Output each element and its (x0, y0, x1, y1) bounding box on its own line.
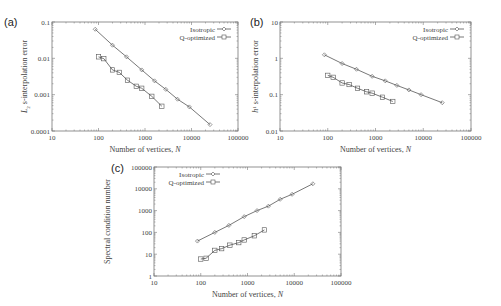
chart-a: 101001000100001000000.00010.0010.010.1Nu… (0, 0, 250, 155)
x-tick-label: 100000 (228, 134, 250, 142)
legend-label: Isotropic (423, 26, 448, 34)
chart-b: 101001000100001000000.010.1110Number of … (250, 0, 501, 155)
y-tick-label: 1 (275, 55, 279, 63)
panel-letter-c: (c) (111, 162, 124, 174)
y-tick-label: 0.01 (266, 128, 279, 136)
legend-label: Q-optimized (180, 34, 216, 42)
y-tick-label: 100000 (131, 164, 153, 172)
y-tick-label: 1000 (138, 207, 153, 215)
data-point (440, 101, 444, 105)
y-tick-label: 0.001 (34, 91, 50, 99)
series-isotropic (322, 53, 444, 105)
x-tick-label: 100000 (461, 134, 483, 142)
y-axis-label: L2 s-interpolation error (20, 40, 31, 114)
panel-a: (a) 101001000100001000000.00010.0010.010… (0, 0, 250, 155)
y-axis-label: h1 s-interpolation error (251, 40, 260, 113)
y-axis-label: Spectral condition number (103, 179, 112, 264)
x-tick-label: 1000 (241, 279, 256, 287)
x-tick-label: 1000 (138, 134, 153, 142)
x-tick-label: 100 (323, 134, 334, 142)
data-point (391, 99, 395, 103)
series-isotropic (93, 27, 212, 126)
legend: IsotropicQ-optimized (169, 171, 220, 187)
x-tick-label: 100 (93, 134, 104, 142)
x-tick-label: 100 (196, 279, 207, 287)
x-axis-label: Number of vertices, N (212, 290, 284, 299)
legend-label: Isotropic (179, 171, 204, 179)
y-tick-label: 10 (271, 19, 279, 27)
series-isotropic (195, 182, 314, 243)
legend: IsotropicQ-optimized (180, 26, 231, 42)
x-tick-label: 1000 (369, 134, 384, 142)
panel-b: (b) 101001000100001000000.010.1110Number… (250, 0, 501, 155)
x-tick-label: 10000 (183, 134, 201, 142)
x-tick-label: 100000 (331, 279, 353, 287)
legend: IsotropicQ-optimized (413, 26, 464, 42)
legend-label: Q-optimized (413, 34, 449, 42)
panel-letter-b: (b) (250, 16, 263, 28)
x-tick-label: 10000 (286, 279, 304, 287)
chart-c: 1010010001000010000011010010001000010000… (100, 153, 360, 306)
y-tick-label: 0.1 (269, 91, 278, 99)
y-tick-label: 0.0001 (31, 128, 51, 136)
series-q-optimized (96, 55, 164, 109)
y-tick-label: 1 (149, 273, 153, 281)
y-tick-label: 10 (145, 251, 153, 259)
y-tick-label: 100 (142, 229, 153, 237)
x-tick-label: 10000 (415, 134, 433, 142)
panel-c: (c) 101001000100001000001101001000100001… (100, 153, 360, 306)
y-tick-label: 0.01 (38, 55, 51, 63)
legend-label: Q-optimized (169, 179, 205, 187)
y-tick-label: 0.1 (41, 19, 50, 27)
series-q-optimized (326, 73, 395, 104)
legend-label: Isotropic (190, 26, 215, 34)
y-tick-label: 10000 (135, 185, 153, 193)
panel-letter-a: (a) (4, 16, 17, 28)
series-q-optimized (199, 228, 267, 262)
